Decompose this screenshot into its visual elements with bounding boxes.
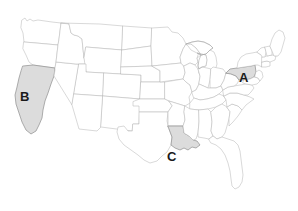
state-arizona <box>72 94 103 131</box>
state-wyoming <box>84 47 122 74</box>
state-oklahoma <box>133 99 172 112</box>
state-florida <box>209 136 243 189</box>
state-colorado <box>103 73 141 99</box>
state-washington <box>21 18 61 45</box>
map-label-a: A <box>239 71 248 84</box>
state-alabama <box>198 109 213 139</box>
state-kansas <box>140 82 165 99</box>
state-oregon <box>23 42 58 68</box>
map-label-b: B <box>20 90 29 103</box>
map-label-c: C <box>167 150 176 163</box>
state-georgia <box>211 104 230 139</box>
state-maine <box>270 30 285 56</box>
us-map-container: A B C <box>0 0 298 211</box>
us-map-svg <box>0 0 298 211</box>
